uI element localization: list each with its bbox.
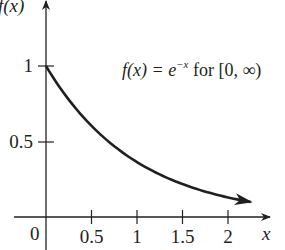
origin-label: 0 <box>30 223 40 244</box>
x-axis-label: x <box>261 223 271 244</box>
x-tick-label: 2 <box>223 226 233 247</box>
y-axis-label: f(x) <box>0 0 24 17</box>
y-tick-label: 0.5 <box>9 131 33 152</box>
exponential-decay-chart: 0.511.52 0.51 0 x f(x) f(x) = e−x for [0… <box>0 0 285 250</box>
x-tick-label: 1 <box>132 226 142 247</box>
function-annotation: f(x) = e−x for [0, ∞) <box>122 58 261 81</box>
x-tick-label: 0.5 <box>80 226 104 247</box>
x-ticks: 0.511.52 <box>80 210 233 247</box>
x-tick-label: 1.5 <box>171 226 195 247</box>
exponential-curve <box>46 66 251 202</box>
y-tick-label: 1 <box>24 55 34 76</box>
